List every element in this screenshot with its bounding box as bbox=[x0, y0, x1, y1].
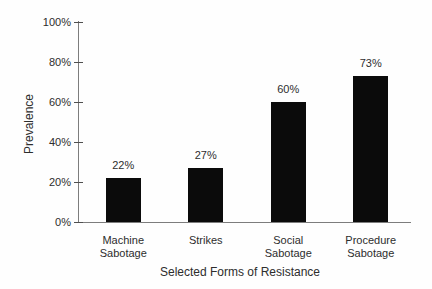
x-category-label-line: Sabotage bbox=[328, 247, 414, 260]
x-category-label: ProcedureSabotage bbox=[328, 234, 414, 260]
x-axis-line bbox=[78, 222, 411, 223]
y-tick-mark bbox=[74, 22, 83, 23]
y-tick-label: 0% bbox=[23, 216, 71, 229]
x-category-label-line: Strikes bbox=[163, 234, 249, 247]
x-axis-title: Selected Forms of Resistance bbox=[160, 265, 320, 279]
y-axis-line bbox=[78, 21, 79, 223]
bar bbox=[106, 178, 141, 222]
y-tick-mark bbox=[74, 222, 83, 223]
y-tick-mark bbox=[74, 102, 83, 103]
bar-value-label: 60% bbox=[263, 83, 313, 95]
x-category-label: Strikes bbox=[163, 234, 249, 247]
y-tick-label: 60% bbox=[23, 96, 71, 109]
bar bbox=[353, 76, 388, 222]
y-tick-mark bbox=[74, 142, 83, 143]
bar bbox=[188, 168, 223, 222]
y-tick-label: 20% bbox=[23, 176, 71, 189]
x-category-label-line: Sabotage bbox=[80, 247, 166, 260]
x-category-label: SocialSabotage bbox=[245, 234, 331, 260]
bar bbox=[271, 102, 306, 222]
y-tick-label: 100% bbox=[23, 16, 71, 29]
y-tick-label: 80% bbox=[23, 56, 71, 69]
x-category-label-line: Social bbox=[245, 234, 331, 247]
x-category-label-line: Machine bbox=[80, 234, 166, 247]
x-category-label-line: Procedure bbox=[328, 234, 414, 247]
bar-chart-figure: Prevalence Selected Forms of Resistance … bbox=[0, 0, 432, 289]
y-tick-mark bbox=[74, 62, 83, 63]
bar-value-label: 27% bbox=[181, 149, 231, 161]
y-tick-label: 40% bbox=[23, 136, 71, 149]
bar-value-label: 73% bbox=[346, 57, 396, 69]
x-category-label: MachineSabotage bbox=[80, 234, 166, 260]
bar-value-label: 22% bbox=[98, 159, 148, 171]
y-tick-mark bbox=[74, 182, 83, 183]
x-category-label-line: Sabotage bbox=[245, 247, 331, 260]
